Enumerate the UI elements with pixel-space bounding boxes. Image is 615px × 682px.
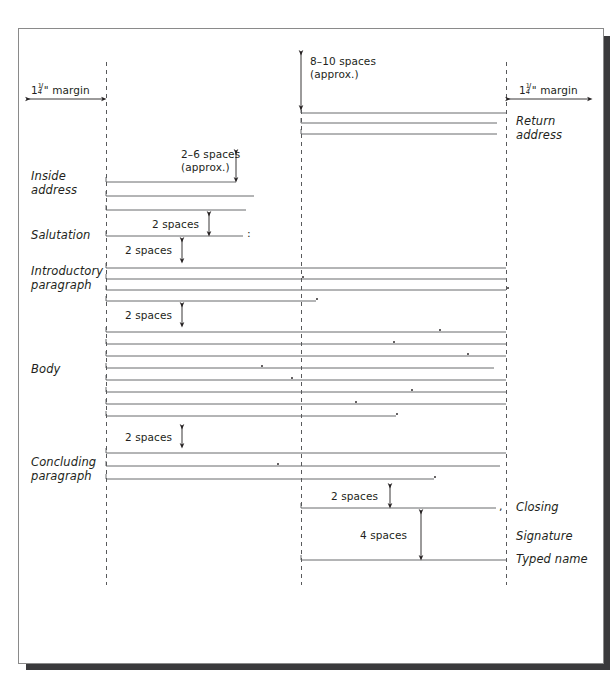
return-address-lines [301,108,506,134]
label-inside-address: Inside address [31,170,77,197]
signature-spacing-label: 4 spaces [360,529,407,542]
text-rules [106,108,506,560]
body-spacing-label: 2 spaces [125,309,172,322]
label-typed-name: Typed name [516,553,588,567]
left-margin-label: 11/4" margin [31,84,90,97]
label-return-address: Return address [516,115,562,142]
intro-spacing-label: 2 spaces [125,244,172,257]
label-concluding-paragraph: Concluding paragraph [31,456,96,483]
concluding-spacing-label: 2 spaces [125,431,172,444]
concluding-paragraph-lines [106,448,506,479]
label-closing: Closing [516,501,559,515]
period-marks [261,276,509,478]
top-spacing-label: 8–10 spaces(approx.) [310,55,376,80]
letter-format-diagram [0,0,615,682]
closing-line [301,503,496,508]
introductory-paragraph-lines [106,263,506,301]
inside-address-lines [106,177,254,210]
closing-comma: , [499,501,503,514]
salutation-colon: : [247,228,251,241]
closing-spacing-label: 2 spaces [331,490,378,503]
salutation-line [106,231,243,236]
label-signature: Signature [516,530,573,544]
inside-address-spacing-label: 2–6 spaces(approx.) [181,148,229,173]
label-body: Body [31,363,60,377]
label-introductory-paragraph: Introductory paragraph [31,265,103,292]
body-lines [106,327,506,416]
label-salutation: Salutation [31,229,90,243]
typed-name-line [301,555,506,560]
salutation-spacing-label: 2 spaces [152,218,199,231]
right-margin-label: 11/4" margin [519,84,578,97]
